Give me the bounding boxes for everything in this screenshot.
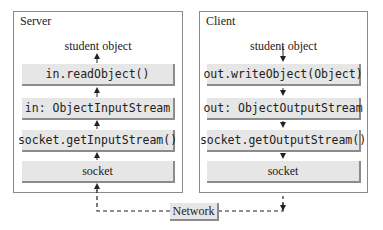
connector-lines <box>0 0 383 230</box>
network-box: Network <box>170 203 219 221</box>
